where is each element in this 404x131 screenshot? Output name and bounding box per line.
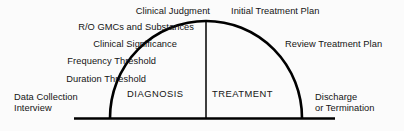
stage-label-frequency-threshold: Frequency Threshold <box>67 56 156 67</box>
stage-label-clinical-judgment: Clinical Judgment <box>136 6 210 17</box>
stage-label-duration-threshold: Duration Threshold <box>66 74 146 85</box>
stage-label-clinical-significance: Clinical Significance <box>93 39 177 50</box>
diagram-canvas: Clinical Judgment R/O GMCs and Substance… <box>0 0 404 131</box>
stage-label-initial-treatment-plan: Initial Treatment Plan <box>231 6 319 17</box>
stage-label-data-collection-interview: Data Collection Interview <box>14 92 78 114</box>
zone-label-treatment: TREATMENT <box>212 88 273 99</box>
zone-label-diagnosis: DIAGNOSIS <box>127 88 184 99</box>
stage-label-discharge-or-termination: Discharge or Termination <box>315 92 374 114</box>
stage-label-review-treatment-plan: Review Treatment Plan <box>285 39 382 50</box>
stage-label-ro-gmcs-and-substances: R/O GMCs and Substances <box>78 22 194 33</box>
